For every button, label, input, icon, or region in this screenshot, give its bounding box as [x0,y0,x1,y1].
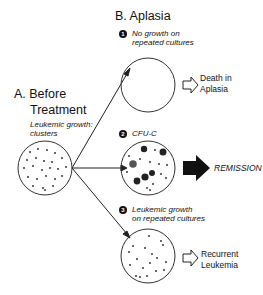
outcome-1-caption-line2: repeated cultures [132,38,194,47]
outcome-3-result-line2: Leukemia [201,260,238,270]
solid-arrow-icon [183,155,210,181]
before-culture-dish [18,141,72,195]
recurrent-leukemia-dish [121,229,175,283]
before-caption-line2: clusters [30,129,58,138]
hollow-arrow-icon [183,250,198,266]
outcome-3-caption-line1: Leukemic growth [132,205,192,214]
number-badge: 2 [119,130,127,138]
outcome-2-caption: CFU-C [132,129,157,138]
cfu-c-dish [121,141,175,195]
number-badge: 3 [119,206,127,214]
no-growth-dish [121,58,175,112]
hollow-arrow-icon [183,77,198,93]
outcome-3-result-line1: Recurrent [201,249,238,259]
before-title-line2: Treatment [30,103,87,117]
before-title: A. Before [14,87,66,101]
outcome-3-caption-line2: on repeated cultures [132,214,205,223]
outcome-2-result: REMISSION [214,164,262,173]
aplasia-title: B. Aplasia [115,9,171,23]
before-caption-line1: Leukemic growth: [30,120,93,129]
outcome-1-result-line1: Death in [200,73,232,83]
number-badge: 1 [119,30,127,38]
outcome-1-caption-line1: No growth on [132,29,180,38]
outcome-1-result-line2: Aplasia [200,84,228,94]
